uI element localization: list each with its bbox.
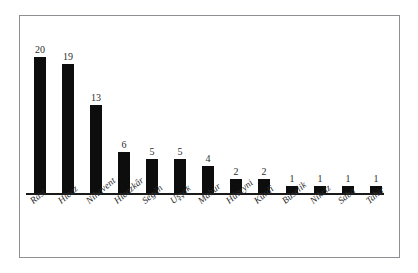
bar-value-label: 6	[110, 139, 138, 150]
x-tick-label: Tahir	[364, 185, 386, 206]
bar-value-label: 5	[166, 146, 194, 157]
bar-group: 1 Nikriz	[306, 16, 334, 259]
bar-group: 2 Hüseyni	[222, 16, 250, 259]
bar-value-label: 1	[362, 173, 390, 184]
bar-value-label: 13	[82, 92, 110, 103]
bar[interactable]	[90, 105, 102, 193]
bar-group: 5 Segâh	[138, 16, 166, 259]
plot-area: 20 Rast 19 Hicaz 13 Nihavent 6 Hicazkâr	[20, 16, 401, 259]
x-tick-label: Uşşak	[168, 183, 193, 206]
bar-group: 13 Nihavent	[82, 16, 110, 259]
x-tick-label: Nikriz	[308, 183, 333, 206]
bar-group: 1 Tahir	[362, 16, 390, 259]
x-tick-label: Saba	[336, 186, 357, 206]
x-tick-label: Hicaz	[56, 183, 80, 205]
bar-group: 6 Hicazkâr	[110, 16, 138, 259]
bar-value-label: 19	[54, 51, 82, 62]
bar-value-label: 1	[334, 173, 362, 184]
bar-group: 5 Uşşak	[166, 16, 194, 259]
chart-figure: 20 Rast 19 Hicaz 13 Nihavent 6 Hicazkâr	[0, 0, 418, 273]
chart-frame: 20 Rast 19 Hicaz 13 Nihavent 6 Hicazkâr	[19, 15, 400, 258]
bar-value-label: 2	[222, 166, 250, 177]
x-tick-label: Kürdî	[252, 184, 276, 206]
bar-value-label: 5	[138, 146, 166, 157]
bar-group: 4 Mahur	[194, 16, 222, 259]
bar-value-label: 2	[250, 166, 278, 177]
bar-group: 1 Büselik	[278, 16, 306, 259]
x-tick-label: Segâh	[140, 183, 165, 206]
bar[interactable]	[34, 57, 46, 193]
bar-value-label: 4	[194, 153, 222, 164]
bar-group: 1 Saba	[334, 16, 362, 259]
bar-group: 2 Kürdî	[250, 16, 278, 259]
bar-value-label: 1	[306, 173, 334, 184]
bar[interactable]	[62, 64, 74, 193]
bar-group: 19 Hicaz	[54, 16, 82, 259]
bar-value-label: 20	[26, 44, 54, 55]
bar-group: 20 Rast	[26, 16, 54, 259]
